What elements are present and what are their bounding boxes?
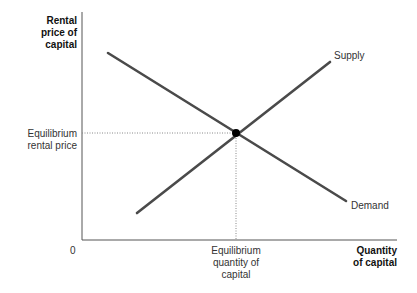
equilibrium-price-label: Equilibrium rental price: [0, 128, 77, 152]
eq-price-line: Equilibrium: [0, 128, 77, 140]
eq-price-line: rental price: [0, 140, 77, 152]
supply-label: Supply: [334, 50, 365, 62]
eq-qty-line: capital: [196, 269, 276, 281]
y-axis-label-line: price of: [0, 27, 77, 39]
origin-label: 0: [70, 245, 76, 257]
equilibrium-quantity-label: Equilibrium quantity of capital: [196, 245, 276, 281]
y-axis-label-line: capital: [0, 39, 77, 51]
y-axis-label: Rental price of capital: [0, 15, 77, 51]
x-axis-label-line: Quantity: [317, 245, 397, 257]
eq-qty-line: quantity of: [196, 257, 276, 269]
demand-curve: [108, 53, 346, 201]
equilibrium-point: [232, 129, 240, 137]
demand-label: Demand: [351, 200, 389, 212]
eq-qty-line: Equilibrium: [196, 245, 276, 257]
x-axis-label: Quantity of capital: [317, 245, 397, 269]
y-axis-label-line: Rental: [0, 15, 77, 27]
x-axis-label-line: of capital: [317, 257, 397, 269]
supply-curve: [137, 62, 330, 213]
